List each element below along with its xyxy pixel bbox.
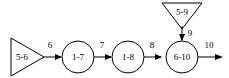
edge-7-arrowhead	[105, 54, 112, 60]
edge-9-label: 9	[188, 28, 193, 38]
edge-6-label: 6	[48, 40, 53, 50]
node-6-10-label: 6-10	[174, 52, 191, 62]
edge-8-arrowhead	[155, 54, 162, 60]
edge-8-label: 8	[150, 40, 155, 50]
node-source-top-label: 5-9	[176, 7, 188, 17]
edge-6-arrowhead	[55, 54, 62, 60]
flow-diagram: 5-6 6 1-7 7 1-8 8 5-9 9 6-10 10	[0, 0, 229, 78]
node-1-7-label: 1-7	[72, 52, 84, 62]
node-source-left-label: 5-6	[16, 52, 28, 62]
edge-9-arrowhead	[179, 34, 185, 41]
node-1-8-label: 1-8	[122, 52, 134, 62]
edge-7-label: 7	[100, 40, 105, 50]
edge-10-label: 10	[205, 40, 215, 50]
diagram-canvas: 5-6 6 1-7 7 1-8 8 5-9 9 6-10 10	[0, 0, 229, 78]
edge-10-arrowhead	[215, 54, 223, 60]
